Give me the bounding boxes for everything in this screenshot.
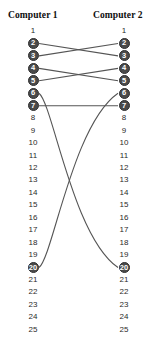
computer-1-pin-label-21: 21 <box>24 276 42 284</box>
computer-2-pin-label-23: 23 <box>115 301 133 309</box>
computer-2-pin-label-10: 10 <box>115 139 133 147</box>
computer-1-pin-label-14: 14 <box>24 189 42 197</box>
computer-1-pin-label-16: 16 <box>24 214 42 222</box>
computer-2-pin-label-9: 9 <box>115 127 133 135</box>
computer-2-pin-label-25: 25 <box>115 326 133 334</box>
computer-1-pin-label-15: 15 <box>24 201 42 209</box>
computer-1-pin-label-17: 17 <box>24 226 42 234</box>
computer-1-pin-label-23: 23 <box>24 301 42 309</box>
wire-3-to-2 <box>39 43 118 55</box>
computer-1-pin-label-10: 10 <box>24 139 42 147</box>
computer-1-pin-label-19: 19 <box>24 251 42 259</box>
wire-2-to-3 <box>39 43 118 55</box>
computer-1-pin-label-12: 12 <box>24 164 42 172</box>
computer-2-pin-label-20: 20 <box>115 264 133 272</box>
computer-1-pin-label-6: 6 <box>24 89 42 97</box>
computer-2-pin-label-7: 7 <box>115 102 133 110</box>
computer-2-pin-label-11: 11 <box>115 152 133 160</box>
computer-2-pin-label-8: 8 <box>115 114 133 122</box>
computer-1-pin-label-25: 25 <box>24 326 42 334</box>
computer-1-pin-label-5: 5 <box>24 77 42 85</box>
computer-1-pin-label-8: 8 <box>24 114 42 122</box>
computer-2-pin-label-18: 18 <box>115 239 133 247</box>
computer-2-pin-label-6: 6 <box>115 89 133 97</box>
computer-2-pin-label-1: 1 <box>115 27 133 35</box>
computer-2-pin-label-16: 16 <box>115 214 133 222</box>
computer-2-pin-label-17: 17 <box>115 226 133 234</box>
computer-2-pin-label-12: 12 <box>115 164 133 172</box>
computer-2-pin-label-13: 13 <box>115 176 133 184</box>
wire-4-to-5 <box>39 68 118 80</box>
computer-2-heading: Computer 2 <box>93 10 143 20</box>
computer-2-pin-label-22: 22 <box>115 288 133 296</box>
computer-1-pin-label-22: 22 <box>24 288 42 296</box>
wire-5-to-4 <box>39 68 118 80</box>
computer-1-pin-label-13: 13 <box>24 176 42 184</box>
null-modem-pinout-diagram: Computer 1 Computer 2 123456789101112131… <box>0 0 163 344</box>
computer-1-pin-label-1: 1 <box>24 27 42 35</box>
computer-1-pin-label-3: 3 <box>24 52 42 60</box>
computer-1-pin-label-24: 24 <box>24 313 42 321</box>
wire-6-to-20 <box>39 93 118 267</box>
computer-2-pin-label-5: 5 <box>115 77 133 85</box>
computer-2-pin-label-14: 14 <box>115 189 133 197</box>
computer-1-pin-label-2: 2 <box>24 39 42 47</box>
computer-2-pin-label-15: 15 <box>115 201 133 209</box>
computer-2-pin-label-3: 3 <box>115 52 133 60</box>
computer-1-heading: Computer 1 <box>8 10 58 20</box>
computer-2-pin-label-4: 4 <box>115 64 133 72</box>
computer-2-pin-label-19: 19 <box>115 251 133 259</box>
wire-20-to-6 <box>39 93 118 267</box>
computer-1-pin-label-18: 18 <box>24 239 42 247</box>
computer-1-pin-label-20: 20 <box>24 264 42 272</box>
computer-2-pin-label-2: 2 <box>115 39 133 47</box>
computer-2-pin-label-24: 24 <box>115 313 133 321</box>
computer-1-pin-label-7: 7 <box>24 102 42 110</box>
computer-1-pin-label-4: 4 <box>24 64 42 72</box>
computer-1-pin-label-9: 9 <box>24 127 42 135</box>
computer-1-pin-label-11: 11 <box>24 152 42 160</box>
computer-2-pin-label-21: 21 <box>115 276 133 284</box>
